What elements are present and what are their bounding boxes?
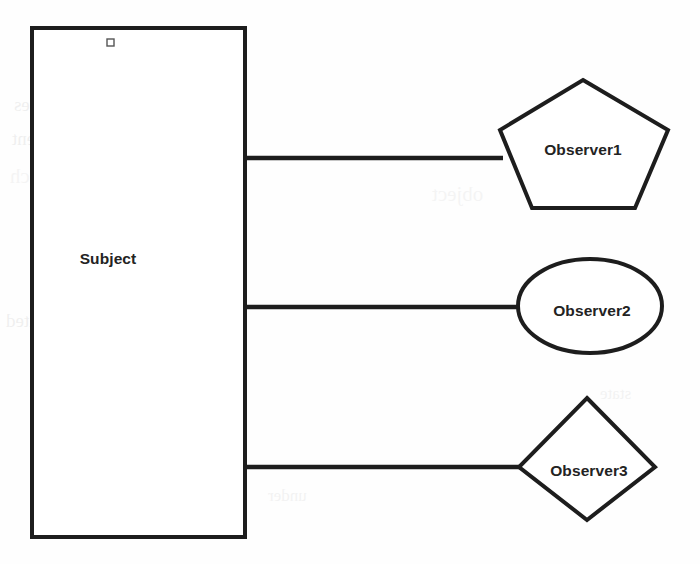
- node-observer2[interactable]: Observer2: [518, 259, 662, 353]
- subject-rectangle[interactable]: [32, 28, 245, 537]
- node-observer3[interactable]: Observer3: [519, 398, 655, 520]
- observer3-label: Observer3: [550, 462, 628, 479]
- node-subject[interactable]: Subject: [32, 28, 245, 537]
- observer3-diamond[interactable]: [519, 398, 655, 520]
- observer-pattern-diagram: Subject Observer1 Observer2 Observer3: [0, 0, 700, 564]
- node-observer1[interactable]: Observer1: [500, 80, 668, 208]
- subject-label: Subject: [80, 250, 137, 267]
- observer2-label: Observer2: [553, 302, 631, 319]
- diagram-canvas: resourcesof therecentwhichforlocatedsome…: [0, 0, 700, 564]
- subject-top-handle-icon[interactable]: [107, 39, 114, 46]
- observer1-label: Observer1: [544, 141, 622, 158]
